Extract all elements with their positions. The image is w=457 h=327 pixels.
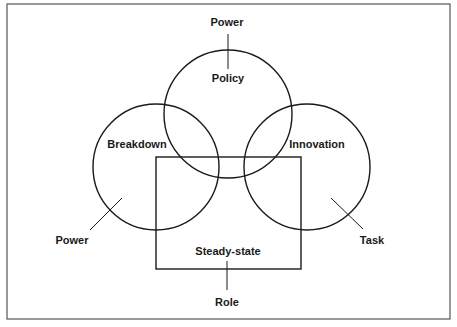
task-label: Task [360, 235, 384, 246]
innovation-label: Innovation [289, 139, 345, 150]
left-power-label: Power [55, 235, 88, 246]
policy-label: Policy [212, 73, 244, 84]
diagram-svg [0, 0, 457, 327]
role-label: Role [215, 297, 239, 308]
steady-state-label: Steady-state [195, 246, 260, 257]
left-power-leader [90, 198, 122, 230]
top-power-label: Power [210, 17, 243, 28]
breakdown-label: Breakdown [107, 139, 166, 150]
diagram-canvas: Power Policy Breakdown Innovation Power … [0, 0, 457, 327]
